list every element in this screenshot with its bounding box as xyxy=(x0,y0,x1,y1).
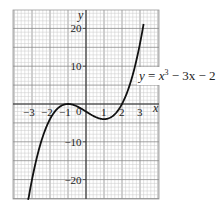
x-tick-label: −1 xyxy=(59,106,71,118)
axes xyxy=(13,10,159,199)
y-tick-label: −10 xyxy=(64,136,82,148)
x-tick-label: −3 xyxy=(23,106,35,118)
y-tick-label: 10 xyxy=(71,60,83,72)
x-tick-label: 3 xyxy=(137,106,143,118)
function-graph: −3−2−11232010−10−200 x y xyxy=(0,0,222,213)
x-tick-label: 1 xyxy=(101,106,107,118)
equation-label: y = x3 − 3x − 2 xyxy=(137,67,218,85)
x-axis-label: x xyxy=(152,101,159,115)
y-tick-label: −20 xyxy=(64,174,82,186)
y-tick-label: 20 xyxy=(71,22,83,34)
y-axis-label: y xyxy=(77,8,84,22)
